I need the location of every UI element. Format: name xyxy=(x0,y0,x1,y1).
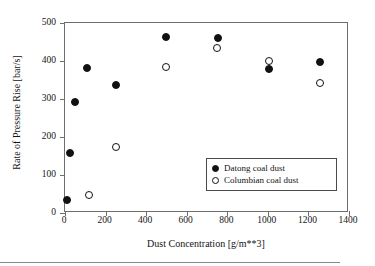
x-axis-label: Dust Concentration [g/m**3] xyxy=(64,238,348,249)
y-tick-mark xyxy=(60,23,65,24)
y-tick-label: 200 xyxy=(22,131,56,141)
data-point-datong xyxy=(66,149,74,157)
y-tick-mark xyxy=(60,99,65,100)
chart-figure: Rate of Pressure Rise [bar/s] 0200400600… xyxy=(0,0,375,266)
y-tick-label: 300 xyxy=(22,93,56,103)
data-point-datong xyxy=(162,33,170,41)
y-tick-label: 500 xyxy=(22,17,56,27)
data-point-datong xyxy=(214,34,222,42)
x-tick-label: 600 xyxy=(166,215,206,226)
data-point-datong xyxy=(83,64,91,72)
data-point-columbian xyxy=(85,191,93,199)
x-tick-label: 800 xyxy=(206,215,246,226)
x-tick-label: 200 xyxy=(85,215,125,226)
y-tick-mark xyxy=(60,61,65,62)
data-point-datong xyxy=(112,81,120,89)
y-tick-mark xyxy=(60,213,65,214)
page-divider-rule xyxy=(0,262,340,263)
y-tick-label: 400 xyxy=(22,55,56,65)
x-tick-label: 1400 xyxy=(328,215,368,226)
y-tick-mark xyxy=(60,137,65,138)
filled-circle-icon xyxy=(212,165,219,172)
y-axis-label: Rate of Pressure Rise [bar/s] xyxy=(11,18,22,208)
data-point-datong xyxy=(265,65,273,73)
legend-label-columbian: Columbian coal dust xyxy=(224,175,299,186)
data-point-columbian xyxy=(112,143,120,151)
y-tick-label: 100 xyxy=(22,169,56,179)
data-point-datong xyxy=(71,98,79,106)
chart-legend: Datong coal dust Columbian coal dust xyxy=(206,158,337,191)
data-point-datong xyxy=(63,196,71,204)
data-point-columbian xyxy=(316,79,324,87)
legend-label-datong: Datong coal dust xyxy=(224,163,285,174)
data-point-columbian xyxy=(162,63,170,71)
legend-entry-datong: Datong coal dust xyxy=(212,162,331,174)
data-point-columbian xyxy=(213,44,221,52)
data-point-columbian xyxy=(265,57,273,65)
x-tick-label: 1000 xyxy=(247,215,287,226)
x-tick-label: 1200 xyxy=(287,215,327,226)
legend-entry-columbian: Columbian coal dust xyxy=(212,174,331,186)
x-tick-label: 400 xyxy=(125,215,165,226)
data-point-datong xyxy=(316,58,324,66)
y-tick-label: 0 xyxy=(22,207,56,217)
y-tick-mark xyxy=(60,175,65,176)
open-circle-icon xyxy=(212,177,219,184)
